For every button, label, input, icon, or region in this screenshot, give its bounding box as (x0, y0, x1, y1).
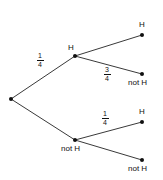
outcome-not-h-not-h-node-dot (140, 158, 144, 162)
branch-not-h-to-h-line (75, 122, 142, 140)
root-node-dot (9, 97, 13, 101)
branch-root-to-h-line (11, 56, 75, 99)
node-dots (9, 33, 144, 162)
branch-root-to-not-h-line (11, 99, 75, 140)
tree-diagram-canvas (0, 0, 163, 180)
branch-h-to-not-h-line (75, 56, 142, 74)
outcome-h-h-node-dot (140, 33, 144, 37)
branch-not-h-to-not-h-line (75, 140, 142, 160)
first-level-h-node-dot (73, 54, 77, 58)
branch-h-to-h-line (75, 35, 142, 56)
first-level-not-h-node-dot (73, 138, 77, 142)
outcome-not-h-h-node-dot (140, 120, 144, 124)
outcome-h-not-h-node-dot (140, 72, 144, 76)
